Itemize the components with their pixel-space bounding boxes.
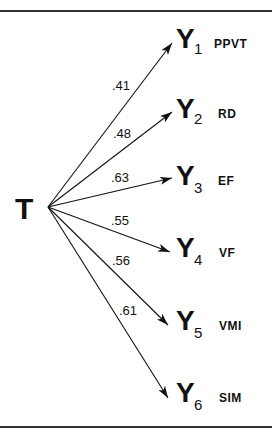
node-Y2: Y 2 RD — [176, 93, 236, 127]
edge-T-Y4 — [48, 207, 170, 252]
node-Y4: Y 4 VF — [176, 232, 235, 268]
node-Y2-label: Y — [176, 93, 195, 124]
loading-Y4: .55 — [111, 213, 129, 228]
node-Y3-tag: EF — [218, 174, 234, 188]
node-Y2-tag: RD — [218, 107, 236, 121]
node-Y1-tag: PPVT — [214, 37, 248, 51]
node-Y6-label: Y — [176, 377, 195, 408]
node-Y4-subscript: 4 — [194, 251, 202, 268]
path-diagram: T .41 .48 .63 .55 .56 .61 Y 1 PPVT Y 2 R… — [0, 0, 272, 440]
node-Y5-label: Y — [176, 305, 195, 336]
node-Y6: Y 6 SIM — [176, 377, 242, 413]
loading-Y5: .56 — [112, 253, 130, 268]
node-Y4-tag: VF — [219, 246, 235, 260]
node-Y6-subscript: 6 — [194, 396, 202, 413]
node-Y3-label: Y — [176, 160, 195, 191]
node-Y3: Y 3 EF — [176, 160, 234, 196]
node-Y5: Y 5 VMI — [176, 305, 242, 341]
node-Y1-label: Y — [176, 23, 195, 54]
node-Y1-subscript: 1 — [194, 40, 202, 57]
node-Y5-tag: VMI — [219, 319, 242, 333]
node-Y1: Y 1 PPVT — [176, 23, 248, 57]
loading-Y3: .63 — [111, 170, 129, 185]
loading-Y6: .61 — [119, 303, 137, 318]
node-Y4-label: Y — [176, 232, 195, 263]
node-Y5-subscript: 5 — [194, 324, 202, 341]
edge-T-Y5 — [48, 207, 168, 325]
loading-Y2: .48 — [113, 126, 131, 141]
node-Y3-subscript: 3 — [194, 179, 202, 196]
loading-Y1: .41 — [112, 78, 130, 93]
node-T: T — [15, 192, 33, 225]
node-Y2-subscript: 2 — [194, 110, 202, 127]
node-Y6-tag: SIM — [219, 391, 242, 405]
edge-T-Y6 — [48, 207, 168, 398]
